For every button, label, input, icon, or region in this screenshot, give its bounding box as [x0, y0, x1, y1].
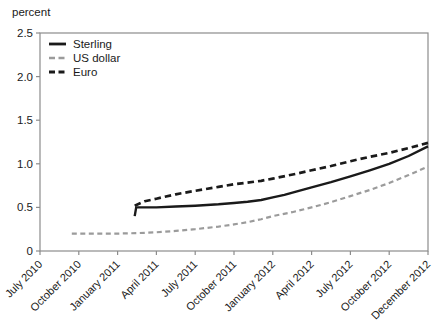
us-dollar-line-swatch-icon	[49, 55, 66, 61]
y-tick-label: 1.5	[17, 114, 33, 126]
x-tick-label: April 2011	[118, 258, 161, 301]
y-tick-label: 1.0	[17, 158, 33, 170]
euro-line-swatch-icon	[49, 69, 66, 75]
legend-item-sterling: Sterling	[49, 38, 120, 50]
legend-label: US dollar	[73, 52, 120, 64]
legend-item-euro: Euro	[49, 66, 120, 78]
legend-item-us-dollar: US dollar	[49, 52, 120, 64]
chart-legend: Sterling US dollar Euro	[49, 38, 120, 78]
legend-label: Sterling	[73, 38, 112, 50]
y-tick-label: 0.5	[17, 201, 33, 213]
y-axis-unit-label: percent	[12, 6, 50, 18]
legend-label: Euro	[73, 66, 97, 78]
series-line-us-dollar	[72, 166, 428, 233]
y-tick-label: 2.0	[17, 71, 33, 83]
x-tick-label: April 2012	[272, 258, 316, 302]
x-tick-label: July 2011	[158, 258, 199, 299]
chart-figure: percent 00.51.01.52.02.5July 2010October…	[0, 0, 448, 327]
y-tick-label: 0	[27, 245, 33, 257]
y-tick-label: 2.5	[17, 27, 33, 39]
series-line-sterling	[135, 146, 428, 216]
sterling-line-swatch-icon	[49, 41, 66, 47]
